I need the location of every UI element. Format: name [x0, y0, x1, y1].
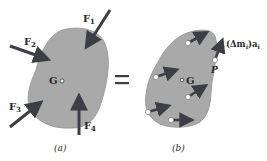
rigid-body-a — [28, 28, 108, 128]
point-label-p: P — [210, 65, 218, 75]
particle-force-label: (Δmi)ai — [226, 39, 260, 50]
center-of-mass-point-a — [60, 79, 64, 83]
panel-b: G P (Δmi)ai (b) — [145, 30, 260, 153]
force-label-f3: F3 — [9, 101, 21, 114]
panel-a: F1 F2 F3 F4 G (a) — [9, 10, 110, 153]
caption-a: (a) — [54, 143, 67, 153]
center-of-mass-point-b — [180, 78, 184, 82]
force-label-f4: F4 — [84, 120, 96, 133]
center-of-mass-label-b: G — [186, 75, 195, 86]
force-label-f2: F2 — [24, 36, 36, 49]
force-label-f1: F1 — [83, 13, 95, 26]
equals-sign — [115, 75, 129, 84]
center-of-mass-label-a: G — [49, 75, 58, 86]
force-arrow-f2 — [10, 46, 47, 59]
caption-b: (b) — [172, 143, 185, 153]
rigid-body-diagram: F1 F2 F3 F4 G (a) — [0, 0, 267, 161]
